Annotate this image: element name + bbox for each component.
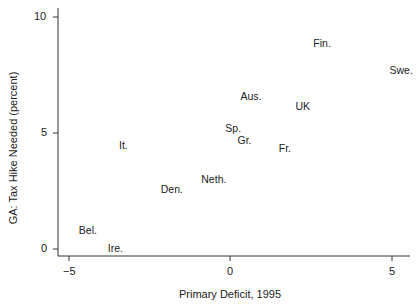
point-label: Fin. <box>313 37 331 49</box>
point-label: Sp. <box>225 122 241 134</box>
point-label: UK <box>295 100 310 112</box>
point-label: Swe. <box>390 64 413 76</box>
point-label: Fr. <box>279 142 291 154</box>
scatter-chart: 10 5 0 −5 0 5 GA: Tax Hike Needed (perce… <box>0 0 419 307</box>
y-axis-label: GA: Tax Hike Needed (percent) <box>7 63 19 233</box>
y-tick-label: 5 <box>41 126 47 138</box>
x-tick-label: 5 <box>389 265 395 277</box>
point-label: Aus. <box>240 90 261 102</box>
x-axis-label: Primary Deficit, 1995 <box>0 288 419 300</box>
point-label: Ire. <box>108 242 123 254</box>
x-tick-label: −5 <box>63 265 76 277</box>
axes <box>0 0 419 307</box>
y-tick-label: 10 <box>34 10 46 22</box>
point-label: Neth. <box>201 173 226 185</box>
point-label: Bel. <box>79 224 97 236</box>
point-label: Den. <box>161 183 183 195</box>
point-label: It. <box>119 139 128 151</box>
point-label: Gr. <box>238 134 252 146</box>
x-tick-label: 0 <box>227 265 233 277</box>
y-tick-label: 0 <box>41 242 47 254</box>
